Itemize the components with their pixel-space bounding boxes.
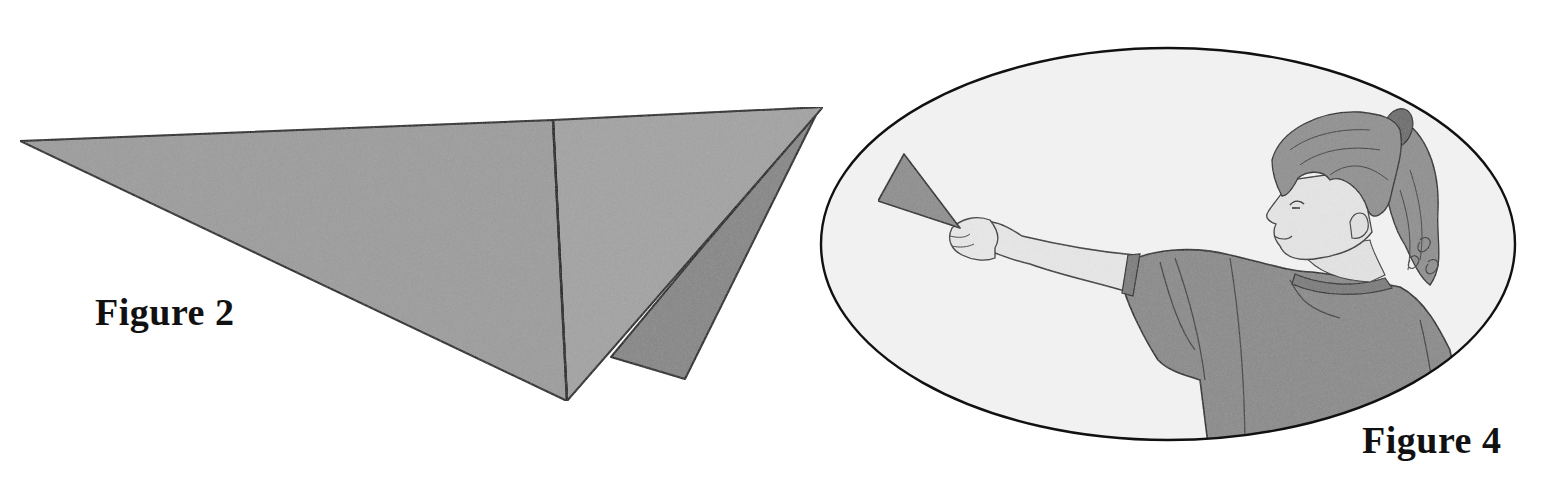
figure-4-caption: Figure 4 [1362,421,1501,459]
illustrations [0,0,1559,481]
figure-2-caption: Figure 2 [95,293,234,331]
figure-2-paper-triangle [20,107,823,401]
paper-left-panel [20,120,567,401]
illustration-page: Figure 2 Figure 4 [0,0,1559,481]
figure-4-oval-illustration [821,48,1515,460]
